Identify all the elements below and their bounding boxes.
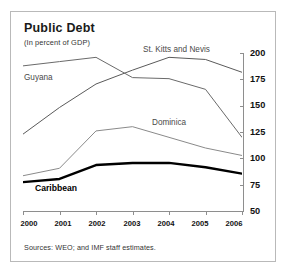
chart-subtitle: (In percent of GDP) [24,38,90,47]
y-tick-label-200: 200 [250,48,265,58]
x-axis-tick-2003 [133,211,134,215]
y-tick-label-175: 175 [250,74,265,84]
y-axis-tick-150 [240,106,244,107]
series-label-st-kitts-and-nevis: St. Kitts and Nevis [143,45,210,54]
series-line-caribbean [23,163,242,182]
x-axis-tick-2005 [206,211,207,215]
figure-canvas: Public Debt (In percent of GDP) St. Kitt… [0,0,289,274]
x-tick-label-2000: 2000 [14,219,44,228]
x-tick-label-2003: 2003 [117,219,147,228]
x-axis-tick-2006 [242,211,243,215]
x-tick-label-2002: 2002 [82,219,112,228]
source-note: Sources: WEO; and IMF staff estimates. [24,243,156,252]
y-tick-label-50: 50 [250,206,260,216]
x-axis-tick-2001 [60,211,61,215]
y-tick-label-75: 75 [250,180,260,190]
series-label-caribbean: Caribbean [35,183,77,193]
y-axis-tick-200 [240,53,244,54]
x-tick-label-2004: 2004 [151,219,181,228]
x-axis-tick-2002 [96,211,97,215]
series-line-st-kitts-and-nevis [23,57,242,134]
x-tick-label-2001: 2001 [48,219,78,228]
x-tick-label-2006: 2006 [219,219,249,228]
series-label-dominica: Dominica [152,118,186,127]
y-tick-label-150: 150 [250,100,265,110]
x-axis-tick-2000 [23,211,24,215]
series-label-guyana: Guyana [24,73,53,82]
y-axis-tick-100 [240,158,244,159]
x-axis-tick-2004 [169,211,170,215]
y-axis-tick-75 [240,185,244,186]
series-line-guyana [23,57,242,137]
y-axis-tick-125 [240,132,244,133]
y-tick-label-125: 125 [250,127,265,137]
y-tick-label-100: 100 [250,153,265,163]
y-axis-tick-175 [240,79,244,80]
x-tick-label-2005: 2005 [185,219,215,228]
x-axis-line [23,211,244,212]
chart-title: Public Debt [24,21,95,35]
